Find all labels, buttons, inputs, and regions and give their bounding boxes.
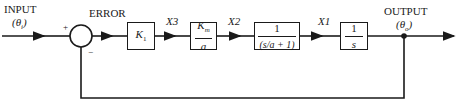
- output-symbol: (θo): [396, 19, 412, 35]
- signal-x3: X3: [166, 16, 178, 27]
- input-label: INPUT: [4, 4, 36, 15]
- block-integrator: 1 s: [340, 22, 368, 50]
- block-first-order-lag: 1 (s/a + 1): [254, 22, 300, 50]
- plus-sign: +: [63, 22, 68, 33]
- input-symbol: (θi): [12, 17, 27, 33]
- signal-x1: X1: [318, 16, 330, 27]
- minus-sign: −: [88, 47, 93, 58]
- signal-x2: X2: [228, 16, 240, 27]
- output-label: OUTPUT: [384, 6, 427, 17]
- block-k1: K1: [127, 22, 155, 50]
- block-km-over-a: Km a: [190, 22, 217, 50]
- error-label: ERROR: [89, 8, 126, 19]
